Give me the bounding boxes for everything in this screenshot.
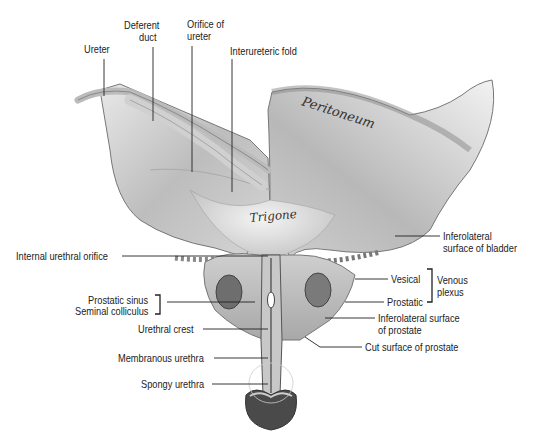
label-deferent-duct-2: duct — [139, 31, 156, 43]
label-orifice-ureter-1: Orifice of — [187, 18, 224, 30]
label-internal-urethral-orifice: Internal urethral orifice — [16, 250, 108, 262]
anatomy-figure: Peritoneum Trigone Ureter Deferent duct … — [0, 0, 537, 435]
left-prostatic-venous — [216, 275, 242, 309]
label-inferolateral-bladder-2: surface of bladder — [443, 242, 517, 254]
label-inferolateral-prostate-2: of prostate — [378, 324, 422, 336]
venous-bracket — [427, 269, 432, 302]
label-deferent-duct-1: Deferent — [124, 19, 159, 31]
label-plexus: plexus — [437, 286, 464, 298]
label-cut-surface-prostate: Cut surface of prostate — [365, 341, 458, 353]
bladder-illustration: Peritoneum Trigone — [0, 0, 537, 435]
label-urethral-crest: Urethral crest — [138, 323, 193, 335]
label-ureter: Ureter — [84, 43, 110, 55]
label-membranous-urethra: Membranous urethra — [118, 352, 204, 364]
seminal-colliculus — [268, 292, 275, 308]
prostatic-bracket — [155, 295, 160, 314]
label-interureteric-fold: Interureteric fold — [230, 45, 297, 57]
label-seminal-colliculus: Seminal colliculus — [75, 305, 148, 317]
label-vesical: Vesical — [391, 273, 420, 285]
label-inferolateral-prostate-1: Inferolateral surface — [378, 312, 460, 324]
right-prostatic-venous — [305, 273, 331, 307]
label-prostatic: Prostatic — [387, 296, 423, 308]
label-orifice-ureter-2: ureter — [187, 30, 211, 42]
label-inferolateral-bladder-1: Inferolateral — [443, 230, 492, 242]
label-venous: Venous — [437, 274, 468, 286]
label-spongy-urethra: Spongy urethra — [141, 378, 204, 390]
